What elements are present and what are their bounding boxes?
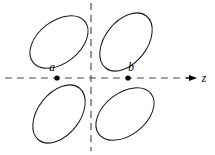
lobe-lower-left [22,75,96,153]
point-label-b: b [128,61,134,73]
axis-label-z: z [201,72,207,84]
lobe-upper-left [20,5,98,79]
point-marker-b [125,75,130,80]
axis-arrow-head-icon [189,75,197,81]
point-marker-a [54,75,59,80]
point-label-a: a [49,61,55,73]
quadrupole-lobe-diagram: a b z [0,0,215,155]
figure-container: a b z [0,0,215,155]
lobe-upper-right [89,3,163,81]
lobe-lower-right [86,77,164,151]
